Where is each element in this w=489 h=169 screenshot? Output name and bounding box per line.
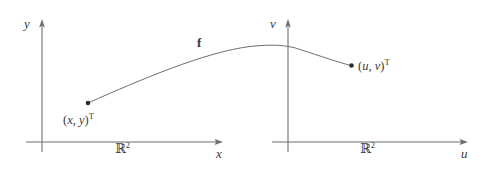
diagram-canvas: [0, 0, 489, 169]
domain-x-axis-label: x: [216, 147, 222, 160]
codomain-v-axis-label: v: [270, 17, 276, 30]
codomain-space-symbol: ℝ: [360, 141, 371, 156]
domain-point-transpose: T: [89, 111, 94, 121]
codomain-axes: [272, 19, 468, 152]
mapping-curve-path: [89, 45, 351, 102]
codomain-space-label: ℝ2: [360, 141, 375, 155]
codomain-space-exponent: 2: [371, 140, 375, 150]
domain-space-symbol: ℝ: [115, 141, 126, 156]
math-diagram-figure: y x ℝ2 (x, y)T v u ℝ2 (u, v)T f: [0, 0, 489, 169]
domain-axes: [26, 19, 223, 152]
domain-space-label: ℝ2: [115, 141, 130, 155]
domain-point-label: (x, y)T: [63, 112, 94, 127]
codomain-point-transpose: T: [384, 57, 389, 67]
domain-space-exponent: 2: [126, 140, 130, 150]
domain-point-dot: [86, 101, 91, 106]
domain-y-axis-label: y: [24, 17, 30, 30]
codomain-point-label: (u, v)T: [358, 58, 390, 73]
codomain-point-dot: [349, 63, 354, 68]
mapping-function-label: f: [197, 36, 201, 49]
codomain-u-axis-label: u: [461, 147, 468, 160]
